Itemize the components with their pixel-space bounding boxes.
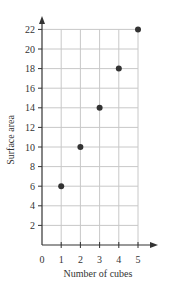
data-point — [97, 105, 103, 111]
y-tick-label: 12 — [25, 122, 35, 133]
y-tick-label: 20 — [25, 44, 35, 55]
x-tick-label: 5 — [136, 254, 141, 265]
y-tick-label: 4 — [30, 200, 35, 211]
y-tick-label: 16 — [25, 83, 35, 94]
y-tick-label: 18 — [25, 63, 35, 74]
x-tick-label: 2 — [78, 254, 83, 265]
data-point — [135, 26, 141, 32]
y-axis-label: Surface area — [5, 115, 16, 165]
x-tick-labels: 012345 — [40, 254, 141, 265]
x-tick-label: 3 — [97, 254, 102, 265]
data-point — [58, 183, 64, 189]
x-tick-label: 0 — [40, 254, 45, 265]
data-point — [116, 66, 122, 72]
y-tick-label: 6 — [30, 181, 35, 192]
y-tick-label: 10 — [25, 142, 35, 153]
x-axis-arrow-icon — [150, 242, 158, 248]
y-tick-label: 14 — [25, 102, 35, 113]
y-tick-label: 8 — [30, 161, 35, 172]
y-tick-labels: 246810121416182022 — [25, 24, 35, 231]
grid-lines — [42, 29, 138, 245]
y-tick-label: 22 — [25, 24, 35, 35]
axes — [38, 16, 158, 248]
scatter-chart: 246810121416182022 012345 Number of cube… — [0, 0, 171, 290]
x-tick-label: 4 — [116, 254, 121, 265]
data-point — [77, 144, 83, 150]
x-tick-label: 1 — [59, 254, 64, 265]
y-tick-label: 2 — [30, 220, 35, 231]
x-axis-label: Number of cubes — [64, 268, 133, 279]
y-axis-arrow-icon — [39, 16, 45, 24]
